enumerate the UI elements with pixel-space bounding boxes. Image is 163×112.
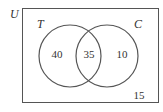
universe-label: U	[10, 7, 20, 21]
set-t-label: T	[37, 17, 45, 31]
c-only-value: 10	[117, 48, 129, 60]
outside-value: 15	[134, 89, 146, 101]
venn-diagram: U T C 40 35 10 15	[0, 0, 163, 112]
set-c-label: C	[134, 17, 143, 31]
t-only-value: 40	[52, 48, 64, 60]
intersection-value: 35	[84, 48, 96, 60]
